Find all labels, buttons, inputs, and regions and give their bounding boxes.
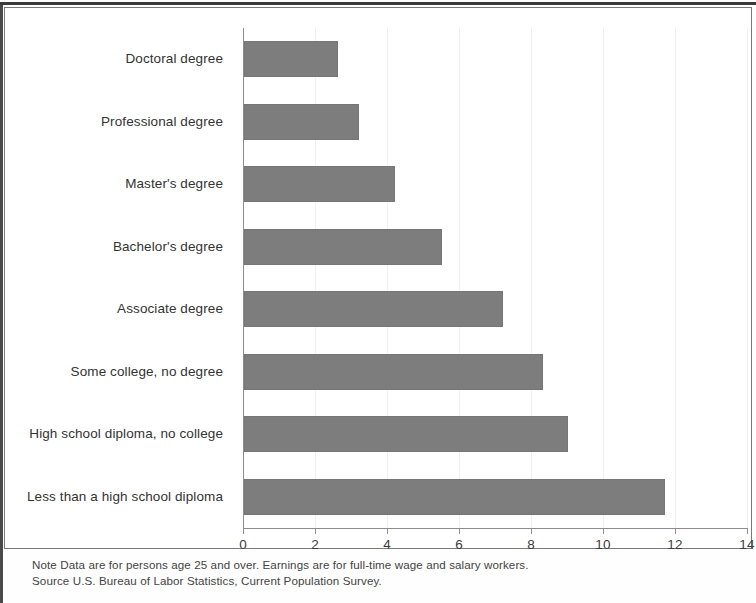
gridline [603, 28, 604, 528]
x-tick-mark [531, 528, 532, 534]
category-label: Less than a high school diploma [27, 479, 223, 515]
bar-row[interactable] [244, 479, 665, 515]
bar[interactable] [244, 291, 503, 327]
footnote-note: Note Data are for persons age 25 and ove… [32, 557, 732, 573]
x-tick-label: 12 [655, 537, 695, 552]
x-tick-mark [243, 528, 244, 534]
x-tick-mark [459, 528, 460, 534]
x-tick-label: 6 [439, 537, 479, 552]
category-label: Associate degree [117, 291, 223, 327]
x-axis-spine [243, 528, 747, 529]
x-tick-label: 2 [295, 537, 335, 552]
figure-container: Doctoral degreeProfessional degreeMaster… [0, 0, 756, 603]
bar-row[interactable] [244, 416, 568, 452]
bar-row[interactable] [244, 41, 338, 77]
x-tick-mark [315, 528, 316, 534]
gridline [531, 28, 532, 528]
bar[interactable] [244, 104, 359, 140]
bar[interactable] [244, 479, 665, 515]
gridline [675, 28, 676, 528]
category-label: Doctoral degree [125, 41, 223, 77]
plot-area: 02468101214 [243, 28, 747, 530]
bar-row[interactable] [244, 166, 395, 202]
bar-row[interactable] [244, 104, 359, 140]
bar[interactable] [244, 416, 568, 452]
bar[interactable] [244, 354, 543, 390]
x-tick-label: 0 [223, 537, 263, 552]
x-tick-label: 8 [511, 537, 551, 552]
x-tick-mark [747, 528, 748, 534]
category-label: Master's degree [125, 166, 223, 202]
category-label: Some college, no degree [71, 354, 223, 390]
gridline [387, 28, 388, 528]
category-label: Professional degree [101, 104, 223, 140]
figure-footnotes: Note Data are for persons age 25 and ove… [32, 557, 732, 589]
x-tick-label: 4 [367, 537, 407, 552]
bar-row[interactable] [244, 229, 442, 265]
gridline [459, 28, 460, 528]
y-axis-category-labels: Doctoral degreeProfessional degreeMaster… [0, 28, 233, 530]
x-tick-mark [603, 528, 604, 534]
figure-top-rule [0, 2, 756, 5]
x-tick-label: 14 [727, 537, 756, 552]
bar-row[interactable] [244, 291, 503, 327]
category-label: Bachelor's degree [113, 229, 223, 265]
bar-row[interactable] [244, 354, 543, 390]
x-tick-mark [675, 528, 676, 534]
bar[interactable] [244, 229, 442, 265]
footnote-source: Source U.S. Bureau of Labor Statistics, … [32, 573, 732, 589]
x-tick-mark [387, 528, 388, 534]
gridline [747, 28, 748, 528]
bar[interactable] [244, 41, 338, 77]
category-label: High school diploma, no college [29, 416, 223, 452]
x-tick-label: 10 [583, 537, 623, 552]
bar[interactable] [244, 166, 395, 202]
